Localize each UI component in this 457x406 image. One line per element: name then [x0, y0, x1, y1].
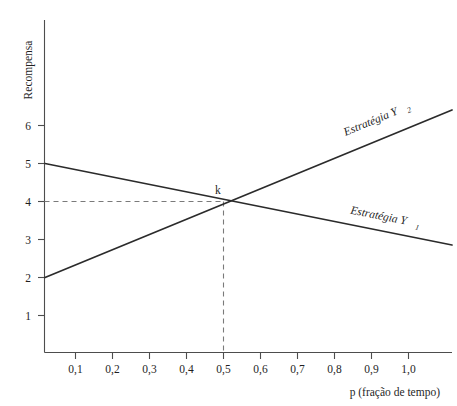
- y-tick-label-1: 1: [25, 310, 31, 322]
- series-label-estrategia-y1-text: Estratégia Y: [348, 203, 409, 227]
- x-tick-label-0-7: 0,7: [290, 363, 305, 376]
- x-tick-label-0-3: 0,3: [142, 363, 157, 376]
- x-axis-title: p (fração de tempo): [350, 386, 441, 399]
- x-tick-label-0-8: 0,8: [327, 363, 342, 376]
- series-line-estrategia-y1: [45, 164, 452, 246]
- series-label-estrategia-y2-subscript: 2: [406, 105, 413, 115]
- series-label-estrategia-y1-subscript: 1: [414, 223, 420, 233]
- x-tick-label-0-5: 0,5: [216, 363, 231, 376]
- x-tick-label-0-1: 0,1: [68, 363, 83, 376]
- line-chart-svg: 6 5 4 3 2 1 0,1 0,2 0,3 0,4 0,5 0,6 0,7 …: [0, 0, 457, 406]
- x-axis-ticks: [76, 353, 409, 360]
- series-line-estrategia-y2: [45, 110, 452, 278]
- y-axis-title: Recompensa: [22, 41, 35, 100]
- y-tick-label-4: 4: [25, 196, 31, 208]
- x-tick-label-0-9: 0,9: [364, 363, 379, 376]
- x-tick-label-0-6: 0,6: [253, 363, 268, 376]
- y-tick-label-5: 5: [25, 158, 31, 170]
- y-axis-ticks: [38, 126, 45, 316]
- x-tick-label-0-2: 0,2: [105, 363, 120, 376]
- x-tick-label-0-4: 0,4: [179, 363, 194, 376]
- y-tick-label-2: 2: [25, 272, 31, 284]
- x-tick-label-1-0: 1,0: [401, 363, 416, 376]
- intersection-point-label-k: k: [215, 184, 221, 196]
- y-tick-label-6: 6: [25, 120, 31, 132]
- series-label-estrategia-y2: Estratégia Y 2: [341, 100, 413, 141]
- chart-figure: 6 5 4 3 2 1 0,1 0,2 0,3 0,4 0,5 0,6 0,7 …: [0, 0, 457, 406]
- series-label-estrategia-y1: Estratégia Y 1: [348, 203, 421, 232]
- y-tick-label-3: 3: [25, 234, 31, 246]
